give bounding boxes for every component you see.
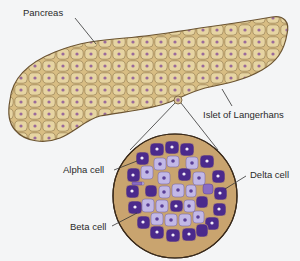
pancreas-body xyxy=(9,17,288,142)
pancreas-diagram xyxy=(0,0,300,261)
alpha-cell-label: Alpha cell xyxy=(63,165,104,175)
islet-magnified xyxy=(113,134,237,258)
diagram-stage: Pancreas Islet of Langerhans Alpha cell … xyxy=(0,0,300,261)
islet-leader xyxy=(222,89,232,106)
islet-label: Islet of Langerhans xyxy=(203,110,284,120)
pancreas-leader xyxy=(75,18,96,44)
beta-cell-label: Beta cell xyxy=(70,222,106,232)
delta-cell-label: Delta cell xyxy=(250,170,289,180)
pancreas-label: Pancreas xyxy=(23,8,63,18)
